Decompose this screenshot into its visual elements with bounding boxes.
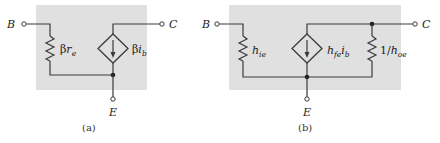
- panel-b: B hie hfeib 1/hoe C E (b): [201, 5, 431, 133]
- terminal-icon: [215, 22, 219, 26]
- caption-a: (a): [82, 122, 96, 133]
- caption-b: (b): [298, 122, 312, 133]
- panel-a: B βre βib C E (a): [6, 5, 178, 133]
- terminal-label-b: B: [201, 18, 210, 31]
- terminal-label-b: B: [6, 18, 15, 31]
- terminal-label-e: E: [108, 106, 117, 119]
- terminal-icon: [22, 22, 26, 26]
- terminal-icon: [111, 97, 115, 101]
- terminal-icon: [160, 22, 164, 26]
- terminal-label-c: C: [422, 18, 431, 31]
- output-resistor-label: 1/hoe: [380, 44, 407, 59]
- terminal-icon: [413, 22, 417, 26]
- transistor-equivalent-circuits: B βre βib C E (a) B hie: [0, 0, 440, 143]
- terminal-icon: [305, 97, 309, 101]
- terminal-label-e: E: [302, 106, 311, 119]
- terminal-label-c: C: [169, 18, 178, 31]
